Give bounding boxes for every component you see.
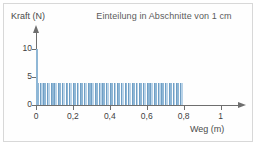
bar bbox=[147, 83, 150, 105]
x-tick-mark bbox=[36, 106, 37, 110]
bar bbox=[77, 83, 80, 105]
bar bbox=[128, 83, 131, 105]
x-tick-label: 0 bbox=[24, 112, 48, 121]
bar bbox=[125, 83, 128, 105]
bar bbox=[180, 83, 183, 105]
bar bbox=[43, 83, 46, 105]
bar bbox=[40, 83, 43, 105]
bar bbox=[173, 83, 176, 105]
bar bbox=[69, 83, 72, 105]
bar bbox=[161, 83, 164, 105]
spike-bar bbox=[36, 49, 38, 105]
bar bbox=[143, 83, 146, 105]
bar bbox=[51, 83, 54, 105]
bar bbox=[121, 83, 124, 105]
bar bbox=[47, 83, 50, 105]
x-tick-mark bbox=[147, 106, 148, 110]
y-tick-label-wrap: 5 bbox=[10, 72, 32, 82]
x-tick-label: 0,4 bbox=[98, 112, 122, 121]
plot-area bbox=[36, 32, 239, 105]
x-tick-label: 0,2 bbox=[61, 112, 85, 121]
bar bbox=[102, 83, 105, 105]
bar bbox=[136, 83, 139, 105]
x-axis-label: Weg (m) bbox=[190, 124, 224, 134]
bar bbox=[54, 83, 57, 105]
bar bbox=[106, 83, 109, 105]
chart-figure: Kraft (N) Einteilung in Abschnitte von 1… bbox=[0, 0, 257, 146]
bar bbox=[99, 83, 102, 105]
bar bbox=[110, 83, 113, 105]
chart-title: Einteilung in Abschnitte von 1 cm bbox=[78, 11, 250, 21]
x-tick-label: 0,8 bbox=[172, 112, 196, 121]
bar bbox=[58, 83, 61, 105]
bar bbox=[80, 83, 83, 105]
x-tick-mark bbox=[73, 106, 74, 110]
bar bbox=[154, 83, 157, 105]
bar bbox=[165, 83, 168, 105]
bar bbox=[91, 83, 94, 105]
bar bbox=[84, 83, 87, 105]
y-tick-label-wrap: 10 bbox=[10, 44, 32, 54]
bar bbox=[73, 83, 76, 105]
bar bbox=[176, 83, 179, 105]
bar bbox=[114, 83, 117, 105]
y-tick-label-wrap: 0 bbox=[10, 100, 32, 110]
y-tick-label: 0 bbox=[16, 100, 32, 109]
x-axis-arrow-icon bbox=[238, 102, 246, 108]
bar bbox=[169, 83, 172, 105]
bar bbox=[95, 83, 98, 105]
bar bbox=[139, 83, 142, 105]
y-axis-label: Kraft (N) bbox=[11, 11, 45, 21]
bar bbox=[158, 83, 161, 105]
x-tick-label: 1 bbox=[209, 112, 233, 121]
x-tick-mark bbox=[110, 106, 111, 110]
bar bbox=[66, 83, 69, 105]
x-axis-line bbox=[36, 105, 239, 106]
x-tick-label: 0,6 bbox=[135, 112, 159, 121]
y-tick-label: 5 bbox=[16, 72, 32, 81]
bar bbox=[88, 83, 91, 105]
x-tick-mark bbox=[221, 106, 222, 110]
bar bbox=[132, 83, 135, 105]
bar bbox=[117, 83, 120, 105]
bar bbox=[62, 83, 65, 105]
y-tick-label: 10 bbox=[16, 44, 32, 53]
x-tick-mark bbox=[184, 106, 185, 110]
bar bbox=[150, 83, 153, 105]
